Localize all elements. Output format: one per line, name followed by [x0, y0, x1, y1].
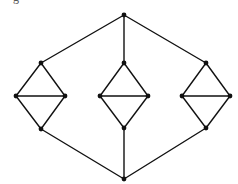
- node-L_bottom: [39, 127, 44, 132]
- edge-L_top-L_right: [41, 63, 65, 96]
- node-R_right: [228, 94, 233, 99]
- node-bottom: [122, 177, 127, 182]
- node-L_top: [39, 61, 44, 66]
- graph-edges: [16, 15, 230, 179]
- node-L_left: [14, 94, 19, 99]
- edge-R_top-R_right: [206, 63, 230, 96]
- node-M_right: [146, 94, 151, 99]
- edge-L_left-L_bottom: [16, 96, 41, 129]
- edge-L_top-L_left: [16, 63, 41, 96]
- edge-R_right-R_bottom: [206, 96, 230, 128]
- node-M_bottom: [122, 126, 127, 131]
- node-R_top: [204, 61, 209, 66]
- edge-L_right-L_bottom: [41, 96, 65, 129]
- node-M_left: [98, 94, 103, 99]
- node-L_right: [63, 94, 68, 99]
- node-top: [122, 13, 127, 18]
- edge-M_top-M_right: [124, 63, 148, 96]
- edge-top-R_top: [124, 15, 206, 63]
- node-R_bottom: [204, 126, 209, 131]
- node-M_top: [122, 61, 127, 66]
- edge-bottom-L_bottom: [41, 129, 124, 179]
- edge-M_left-M_bottom: [100, 96, 124, 128]
- edge-top-L_top: [41, 15, 124, 63]
- edge-R_left-R_bottom: [182, 96, 206, 128]
- graph-diagram: [0, 0, 238, 184]
- edge-R_top-R_left: [182, 63, 206, 96]
- edge-bottom-R_bottom: [124, 128, 206, 179]
- edge-M_right-M_bottom: [124, 96, 148, 128]
- graph-nodes: [14, 13, 233, 182]
- node-R_left: [180, 94, 185, 99]
- edge-M_top-M_left: [100, 63, 124, 96]
